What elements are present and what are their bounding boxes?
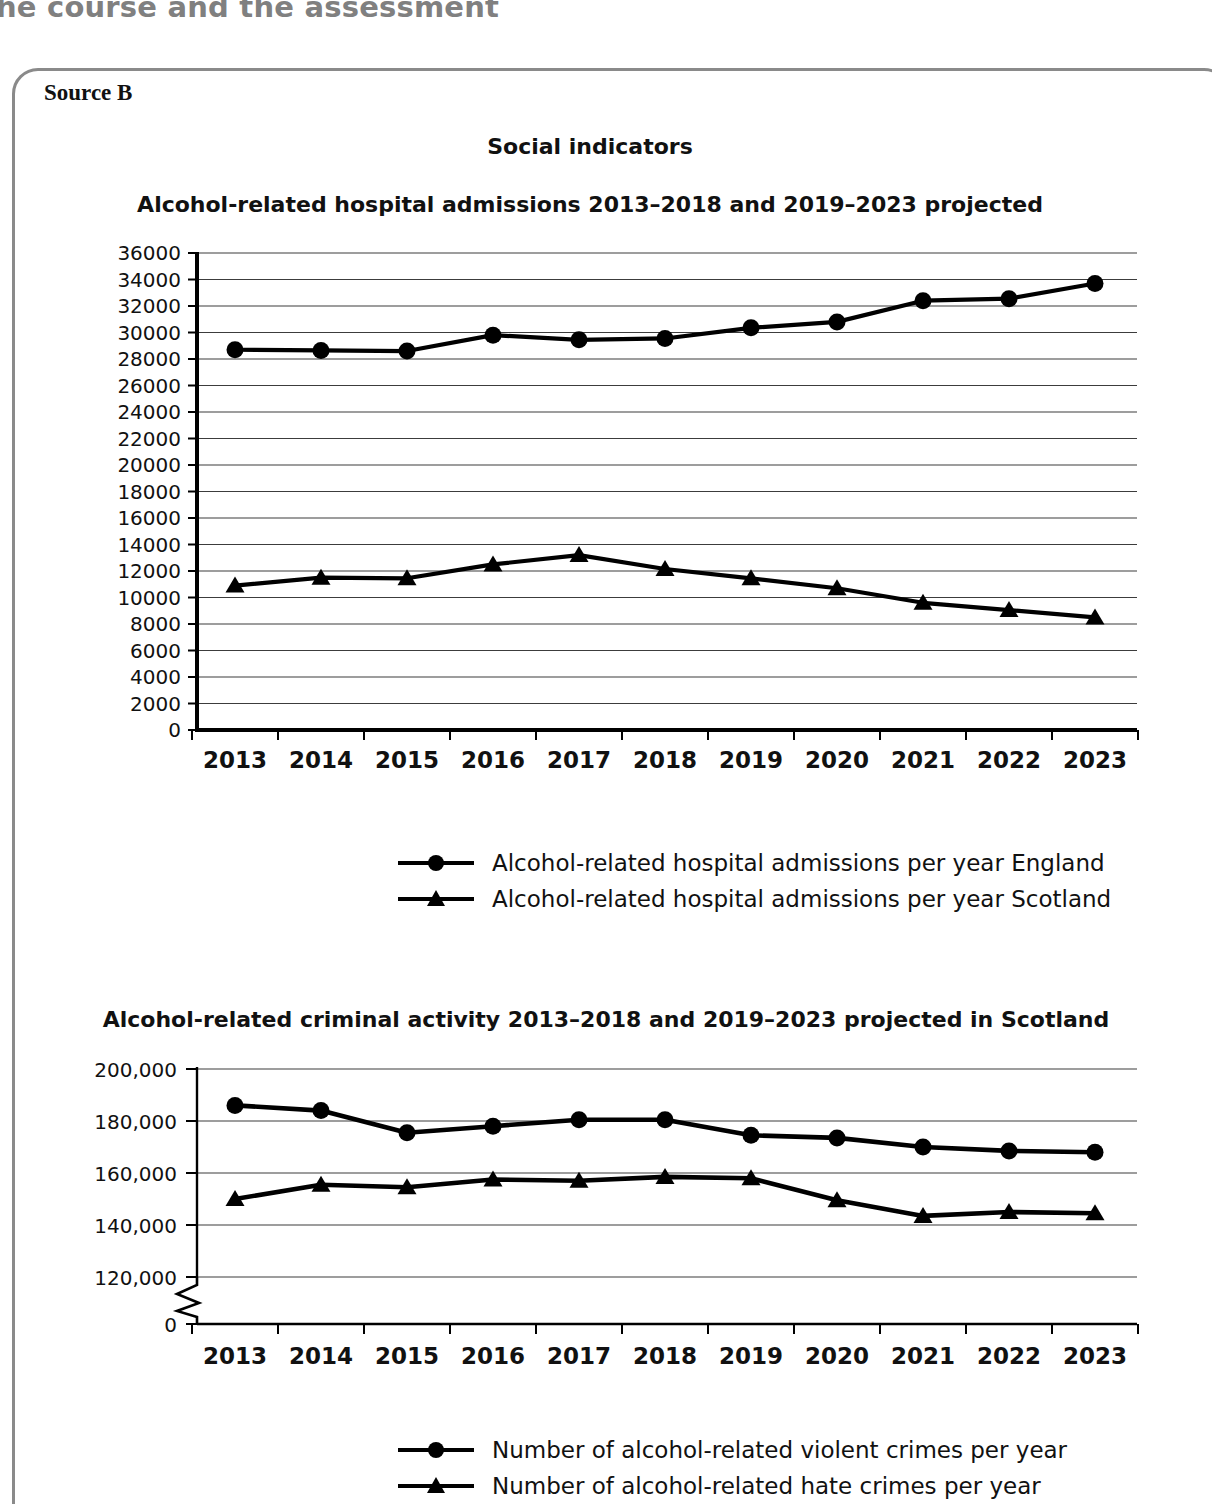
x-axis-label: 2017 — [547, 1343, 611, 1369]
axis-break-icon — [177, 1277, 199, 1324]
legend-label-hate-crimes: Number of alcohol-related hate crimes pe… — [476, 1473, 1041, 1499]
y-axis-label: 30000 — [117, 321, 181, 345]
data-point-marker — [313, 342, 330, 359]
data-point-marker — [1001, 290, 1018, 307]
hospital-admissions-chart: 3600034000320003000028000260002400022000… — [0, 232, 1212, 772]
y-axis-label: 6000 — [130, 639, 181, 663]
data-point-marker — [915, 1139, 932, 1156]
x-axis-label: 2019 — [719, 747, 783, 772]
x-axis-label: 2013 — [203, 747, 267, 772]
legend-label-violent-crimes: Number of alcohol-related violent crimes… — [476, 1437, 1067, 1463]
data-point-marker — [227, 1097, 244, 1114]
chart1-legend: Alcohol-related hospital admissions per … — [396, 845, 1111, 917]
x-axis-label: 2021 — [891, 747, 955, 772]
source-label: Source B — [44, 80, 132, 106]
y-axis-label: 34000 — [117, 268, 181, 292]
chart2-legend: Number of alcohol-related violent crimes… — [396, 1432, 1067, 1504]
y-axis-label: 2000 — [130, 692, 181, 716]
y-axis-label: 26000 — [117, 374, 181, 398]
data-point-marker — [657, 330, 674, 347]
y-axis-label: 10000 — [117, 586, 181, 610]
legend-key-triangle-icon — [396, 886, 476, 912]
y-axis-label: 20000 — [117, 453, 181, 477]
x-axis-label: 2018 — [633, 747, 697, 772]
data-point-marker — [571, 1111, 588, 1128]
x-axis-label: 2019 — [719, 1343, 783, 1369]
page-root: he course and the assessment Source B So… — [0, 0, 1212, 1504]
chart1-title: Alcohol-related hospital admissions 2013… — [0, 192, 1180, 217]
data-point-marker — [485, 327, 502, 344]
y-axis-label: 0 — [168, 718, 181, 742]
y-axis-label: 200,000 — [94, 1058, 177, 1082]
x-axis-label: 2015 — [375, 747, 439, 772]
x-axis-label: 2020 — [805, 1343, 869, 1369]
data-point-marker — [657, 1111, 674, 1128]
y-axis-label: 14000 — [117, 533, 181, 557]
x-axis-label: 2023 — [1063, 747, 1127, 772]
x-axis-label: 2018 — [633, 1343, 697, 1369]
x-axis-label: 2014 — [289, 747, 353, 772]
data-point-marker — [1001, 1142, 1018, 1159]
legend-key-circle-icon — [396, 1437, 476, 1463]
y-axis-label: 12000 — [117, 559, 181, 583]
x-axis-label: 2016 — [461, 1343, 525, 1369]
data-point-marker — [915, 292, 932, 309]
y-axis-label: 36000 — [117, 241, 181, 265]
chart2-title: Alcohol-related criminal activity 2013–2… — [0, 1007, 1212, 1032]
y-axis-label: 140,000 — [94, 1214, 177, 1238]
y-axis-label: 120,000 — [94, 1266, 177, 1290]
data-point-marker — [485, 1118, 502, 1135]
section-title: Social indicators — [0, 134, 1180, 159]
x-axis-label: 2015 — [375, 1343, 439, 1369]
legend-item-hate-crimes: Number of alcohol-related hate crimes pe… — [396, 1468, 1067, 1504]
x-axis-label: 2016 — [461, 747, 525, 772]
data-point-marker — [743, 319, 760, 336]
legend-item-england: Alcohol-related hospital admissions per … — [396, 845, 1111, 881]
y-axis-label: 16000 — [117, 506, 181, 530]
data-point-marker — [829, 313, 846, 330]
legend-key-triangle-icon — [396, 1473, 476, 1499]
criminal-activity-chart: 200,000180,000160,000140,000120,00002013… — [0, 1055, 1212, 1375]
data-point-marker — [829, 1129, 846, 1146]
y-axis-label: 180,000 — [94, 1110, 177, 1134]
x-axis-label: 2014 — [289, 1343, 353, 1369]
x-axis-label: 2020 — [805, 747, 869, 772]
y-axis-label: 22000 — [117, 427, 181, 451]
legend-key-circle-icon — [396, 850, 476, 876]
data-point-marker — [313, 1102, 330, 1119]
x-axis-label: 2013 — [203, 1343, 267, 1369]
data-point-marker — [399, 1124, 416, 1141]
x-axis-label: 2022 — [977, 747, 1041, 772]
data-point-marker — [743, 1127, 760, 1144]
data-point-marker — [1087, 1144, 1104, 1161]
data-point-marker — [571, 331, 588, 348]
x-axis-label: 2022 — [977, 1343, 1041, 1369]
y-axis-label: 4000 — [130, 665, 181, 689]
data-point-marker — [227, 341, 244, 358]
legend-label-scotland: Alcohol-related hospital admissions per … — [476, 886, 1111, 912]
page-header: he course and the assessment — [0, 0, 499, 24]
data-point-marker — [1087, 275, 1104, 292]
x-axis-label: 2017 — [547, 747, 611, 772]
y-axis-label: 32000 — [117, 294, 181, 318]
y-axis-label: 8000 — [130, 612, 181, 636]
x-axis-label: 2023 — [1063, 1343, 1127, 1369]
y-axis-label: 28000 — [117, 347, 181, 371]
y-axis-label: 18000 — [117, 480, 181, 504]
legend-label-england: Alcohol-related hospital admissions per … — [476, 850, 1105, 876]
legend-item-scotland: Alcohol-related hospital admissions per … — [396, 881, 1111, 917]
legend-item-violent-crimes: Number of alcohol-related violent crimes… — [396, 1432, 1067, 1468]
y-axis-label: 24000 — [117, 400, 181, 424]
y-axis-label: 160,000 — [94, 1162, 177, 1186]
data-point-marker — [399, 343, 416, 360]
x-axis-label: 2021 — [891, 1343, 955, 1369]
y-axis-label: 0 — [164, 1313, 177, 1337]
